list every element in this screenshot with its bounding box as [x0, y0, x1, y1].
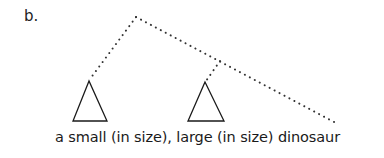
- branch-root-to-right: [136, 17, 334, 122]
- branch-node-to-middle: [206, 61, 220, 81]
- left-triangle: [73, 81, 107, 121]
- branch-root-to-left: [90, 17, 136, 79]
- middle-triangle: [188, 82, 224, 121]
- sentence-text: a small (in size), large (in size) dinos…: [55, 128, 340, 146]
